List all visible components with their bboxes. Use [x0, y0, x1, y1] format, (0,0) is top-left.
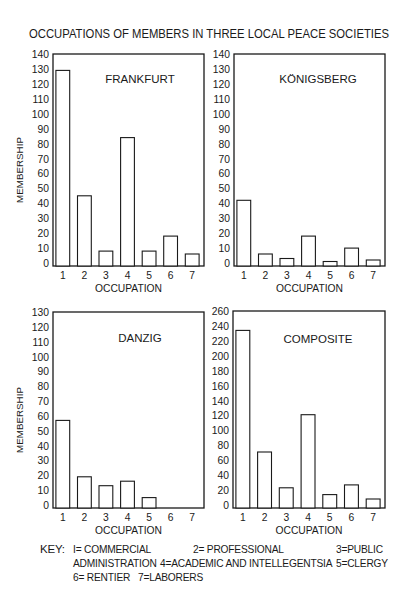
panel-title: COMPOSITE [283, 333, 352, 345]
key-item-5: 5=CLERGY [336, 557, 388, 571]
key-label: KEY: [40, 542, 65, 556]
x-tick-label: 6 [349, 512, 355, 523]
y-tick-label: 110 [214, 94, 231, 105]
bar-composite-4 [301, 415, 315, 508]
y-tick-label: 70 [219, 154, 231, 165]
y-tick-label: 30 [219, 213, 231, 224]
y-tick-label: 20 [38, 228, 50, 239]
bar-frankfurt-7 [185, 254, 199, 266]
bar-konigsberg-6 [345, 248, 359, 266]
chart-konigsberg: 0102030405060708090100110120130140123456… [213, 49, 385, 294]
y-tick-label: 80 [38, 139, 50, 150]
chart-panels: 0102030405060708090100110120130140123456… [14, 49, 385, 536]
bar-danzig-5 [142, 498, 156, 508]
y-tick-label: 260 [212, 306, 229, 317]
y-tick-label: 120 [212, 410, 229, 421]
x-tick-label: 4 [305, 512, 311, 523]
y-tick-label: 160 [212, 381, 229, 392]
y-tick-label: 0 [224, 258, 230, 269]
y-tick-label: 80 [38, 381, 50, 392]
y-tick-label: 80 [219, 139, 231, 150]
bar-konigsberg-1 [237, 200, 251, 266]
x-tick-label: 6 [168, 270, 174, 281]
y-tick-label: 120 [32, 322, 49, 333]
bar-danzig-2 [78, 477, 92, 508]
y-tick-label: 20 [218, 485, 230, 496]
bar-frankfurt-6 [164, 236, 178, 266]
x-tick-label: 2 [82, 512, 88, 523]
x-tick-label: 7 [370, 512, 376, 523]
bar-konigsberg-4 [302, 236, 316, 266]
x-tick-label: 2 [262, 512, 268, 523]
y-axis-label: MEMBERSHIP [14, 387, 25, 453]
bar-konigsberg-7 [366, 260, 380, 266]
x-axis-label: OCCUPATION [275, 525, 342, 536]
x-tick-label: 6 [168, 512, 174, 523]
bar-composite-6 [345, 485, 359, 508]
bar-composite-1 [236, 330, 250, 508]
y-tick-label: 70 [38, 154, 50, 165]
y-tick-label: 140 [32, 49, 49, 60]
y-tick-label: 120 [213, 79, 230, 90]
x-tick-label: 4 [125, 512, 131, 523]
y-tick-label: 180 [212, 366, 229, 377]
key-item-4: 4=ACADEMIC AND INTELLEGENTSIA [160, 557, 332, 571]
bar-composite-5 [323, 495, 337, 508]
y-tick-label: 50 [38, 183, 50, 194]
x-tick-label: 1 [241, 270, 247, 281]
bar-frankfurt-3 [99, 251, 113, 266]
x-tick-label: 5 [327, 270, 333, 281]
bar-frankfurt-5 [142, 251, 156, 266]
y-tick-label: 110 [33, 94, 50, 105]
y-tick-label: 40 [38, 198, 50, 209]
x-axis-label: OCCUPATION [95, 525, 162, 536]
y-tick-label: 60 [219, 168, 231, 179]
y-tick-label: 110 [33, 337, 50, 348]
y-tick-label: 140 [212, 396, 229, 407]
chart-frankfurt: 0102030405060708090100110120130140123456… [14, 49, 204, 294]
plot-frame [234, 54, 385, 266]
x-tick-label: 3 [284, 270, 290, 281]
bar-danzig-3 [99, 486, 113, 508]
y-tick-label: 60 [38, 168, 50, 179]
key-item-7: 7=LABORERS [138, 571, 203, 585]
y-tick-label: 10 [38, 485, 50, 496]
x-tick-label: 1 [60, 270, 66, 281]
y-tick-label: 50 [219, 183, 231, 194]
y-tick-label: 130 [213, 64, 230, 75]
figure-title: OCCUPATIONS OF MEMBERS IN THREE LOCAL PE… [29, 27, 389, 41]
x-tick-label: 2 [82, 270, 88, 281]
x-axis-label: OCCUPATION [95, 283, 162, 294]
y-tick-label: 0 [43, 258, 49, 269]
y-tick-label: 80 [218, 440, 230, 451]
panel-title: KÖNIGSBERG [279, 73, 356, 85]
figure: OCCUPATIONS OF MEMBERS IN THREE LOCAL PE… [0, 0, 413, 601]
chart-danzig: 01020304050607080901001101201301234567DA… [14, 307, 204, 536]
y-tick-label: 50 [38, 426, 50, 437]
x-tick-label: 7 [370, 270, 376, 281]
y-tick-label: 0 [223, 500, 229, 511]
y-tick-label: 130 [32, 307, 49, 318]
bar-danzig-4 [121, 481, 135, 508]
y-tick-label: 40 [218, 470, 230, 481]
bar-frankfurt-4 [121, 138, 135, 266]
x-tick-label: 5 [146, 512, 152, 523]
y-tick-label: 40 [219, 198, 231, 209]
bar-danzig-1 [56, 420, 70, 508]
y-tick-label: 100 [212, 425, 229, 436]
y-tick-label: 130 [32, 64, 49, 75]
x-tick-label: 5 [327, 512, 333, 523]
panel-title: FRANKFURT [105, 73, 174, 85]
key-item-2: 2= PROFESSIONAL [193, 543, 284, 557]
key-item-3-part2: ADMINISTRATION [73, 557, 157, 571]
bar-composite-2 [258, 452, 272, 508]
x-tick-label: 3 [103, 270, 109, 281]
key-item-1: I= COMMERCIAL [73, 543, 151, 557]
x-tick-label: 3 [283, 512, 289, 523]
y-tick-label: 240 [212, 321, 229, 332]
y-tick-label: 100 [32, 352, 49, 363]
y-tick-label: 90 [219, 124, 231, 135]
bar-composite-3 [279, 488, 293, 508]
x-tick-label: 7 [189, 270, 195, 281]
key-item-3-part1: 3=PUBLIC [336, 543, 383, 557]
